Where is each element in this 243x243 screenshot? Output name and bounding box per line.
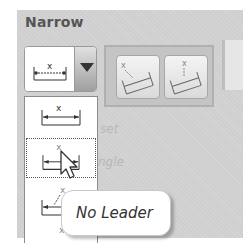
dimension-text-above-icon: x xyxy=(26,93,96,133)
dropdown-item-text-above[interactable]: x xyxy=(26,93,96,133)
chevron-down-icon xyxy=(80,63,94,72)
combo-dropdown-button[interactable] xyxy=(74,47,97,92)
dimension-style-combo[interactable]: x xyxy=(24,46,97,92)
tooltip: No Leader xyxy=(61,190,171,236)
group-title: Narrow xyxy=(25,14,84,30)
svg-text:x: x xyxy=(56,103,62,113)
dimension-text-above-icon: x xyxy=(25,47,74,92)
svg-text:x: x xyxy=(121,61,126,70)
adjacent-control-edge xyxy=(222,40,243,90)
background-label-2: ngle xyxy=(98,155,124,169)
vertical-leader-dimension-icon: x xyxy=(165,56,207,98)
angled-leader-button[interactable]: x xyxy=(116,55,160,99)
svg-text:x: x xyxy=(47,61,53,71)
vertical-leader-button[interactable]: x xyxy=(164,55,208,99)
leader-gallery: x x xyxy=(104,45,214,107)
background-label-1: set xyxy=(100,122,118,136)
combo-selected-value[interactable]: x xyxy=(25,47,74,92)
tooltip-text: No Leader xyxy=(76,204,153,222)
svg-text:x: x xyxy=(182,59,187,68)
angled-leader-dimension-icon: x xyxy=(117,56,159,98)
mouse-pointer-icon xyxy=(60,150,82,182)
